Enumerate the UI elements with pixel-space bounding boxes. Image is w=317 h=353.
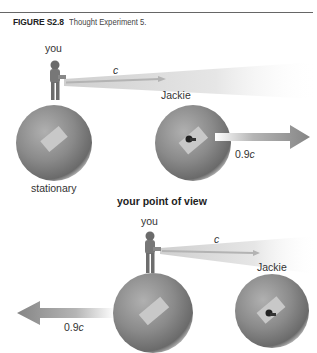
jackie-label-bottom: Jackie [257, 261, 287, 273]
bottom-panel [17, 232, 317, 353]
light-speed-label-top: c [113, 64, 118, 76]
speed-label-bottom: 0.9c [64, 321, 84, 333]
astronaut-you-top [50, 61, 66, 101]
top-panel [16, 61, 317, 182]
stationary-label: stationary [31, 182, 77, 194]
astronaut-you-bottom [145, 232, 161, 274]
section-heading: your point of view [117, 195, 207, 207]
light-speed-label-bottom: c [214, 233, 219, 245]
light-beam-bottom [160, 236, 317, 274]
jackie-label-top: Jackie [161, 89, 191, 101]
speed-label-top: 0.9c [235, 148, 255, 160]
you-label-bottom: you [141, 215, 158, 227]
you-label-top: you [45, 42, 62, 54]
